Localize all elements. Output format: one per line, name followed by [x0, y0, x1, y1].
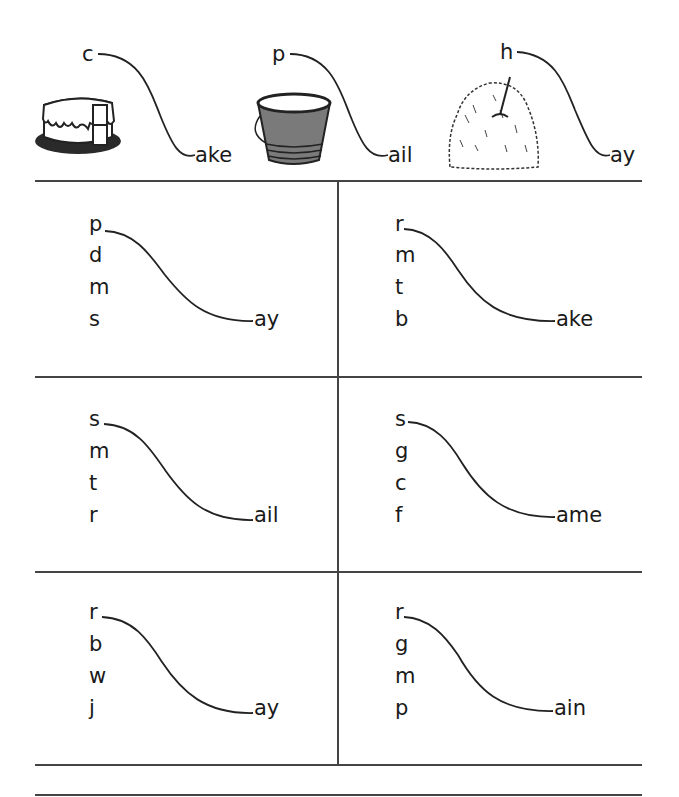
connector-line [0, 0, 679, 797]
rime-ending: ain [554, 698, 586, 719]
